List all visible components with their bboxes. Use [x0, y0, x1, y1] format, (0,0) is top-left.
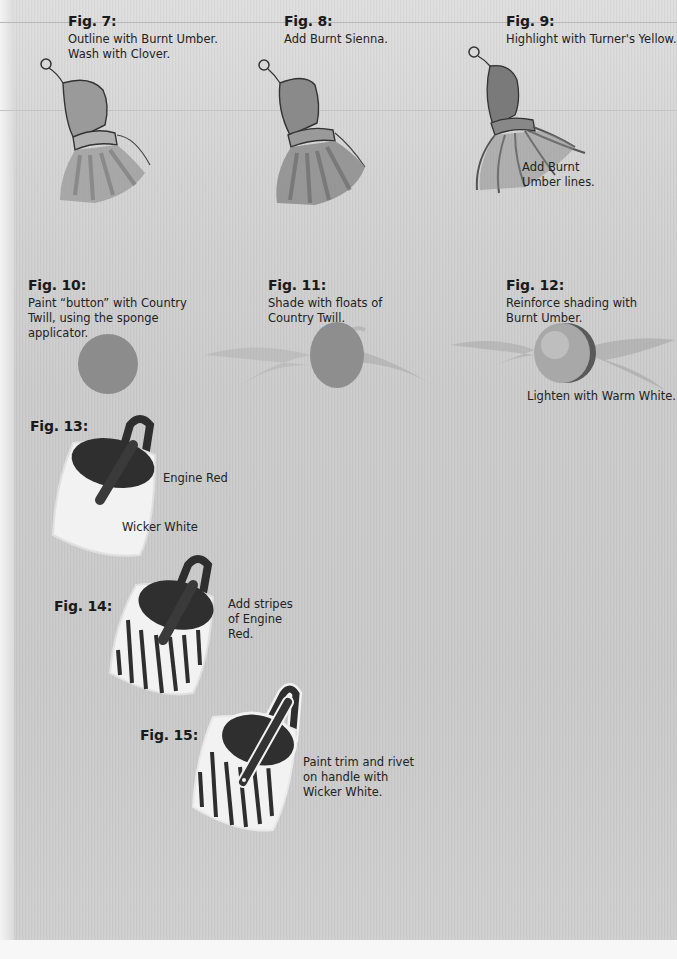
fig-14-caption: Add stripes of Engine Red.: [228, 597, 293, 642]
fig-12-note: Lighten with Warm White.: [527, 389, 676, 404]
caption-line: on handle with: [303, 770, 414, 785]
bucket-fig-13-illustration: [45, 415, 165, 560]
caption-line: Twill, using the sponge: [28, 311, 187, 326]
caption-line: Shade with floats of: [268, 296, 382, 311]
page-edge-left: [0, 0, 14, 959]
tassel-fig-8-illustration: [255, 55, 385, 205]
fig-12-label: Fig. 12:: [506, 277, 564, 293]
painting-instructions-page: Fig. 7: Outline with Burnt Umber. Wash w…: [0, 0, 677, 959]
fig-10-label: Fig. 10:: [28, 277, 86, 293]
fig-15-caption: Paint trim and rivet on handle with Wick…: [303, 755, 414, 800]
tassel-fig-7-illustration: [35, 55, 175, 205]
fig-8-caption: Add Burnt Sienna.: [284, 32, 388, 47]
fig-13-callout-engine-red: Engine Red: [163, 471, 228, 486]
page-edge-bottom: [0, 940, 677, 959]
button-fig-11-illustration: [195, 320, 455, 410]
bucket-fig-14-illustration: [108, 555, 218, 700]
caption-line: Add Burnt Sienna.: [284, 32, 388, 47]
caption-line: of Engine: [228, 612, 293, 627]
fig-7-label: Fig. 7:: [68, 13, 117, 29]
caption-line: Paint “button” with Country: [28, 296, 187, 311]
fig-11-label: Fig. 11:: [268, 277, 326, 293]
fig-9-label: Fig. 9:: [506, 13, 555, 29]
button-fig-12-illustration: [445, 315, 677, 400]
caption-line: Paint trim and rivet: [303, 755, 414, 770]
fig-13-callout-wicker-white: Wicker White: [122, 520, 198, 535]
caption-line: Outline with Burnt Umber.: [68, 32, 218, 47]
button-fig-10-illustration: [75, 330, 145, 400]
note-line: Add Burnt: [522, 160, 595, 175]
caption-line: Red.: [228, 627, 293, 642]
fig-9-note: Add Burnt Umber lines.: [522, 160, 595, 190]
bucket-fig-15-illustration: [188, 682, 303, 832]
caption-line: Add stripes: [228, 597, 293, 612]
note-line: Umber lines.: [522, 175, 595, 190]
caption-line: Reinforce shading with: [506, 296, 637, 311]
fig-8-label: Fig. 8:: [284, 13, 333, 29]
fig-14-label: Fig. 14:: [54, 598, 112, 614]
caption-line: Wicker White.: [303, 785, 414, 800]
